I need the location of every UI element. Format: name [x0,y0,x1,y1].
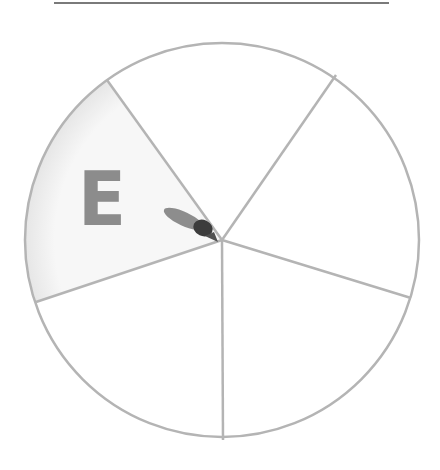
spinner-wheel[interactable] [0,0,440,470]
segment-letter-e: E [78,168,116,230]
